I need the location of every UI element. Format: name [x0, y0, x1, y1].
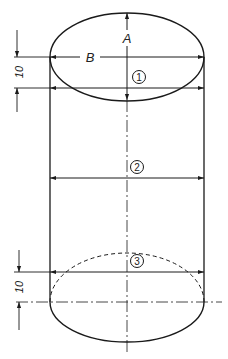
- cylinder-drawing: A B 1 2 3 10 10: [0, 0, 228, 359]
- label-b: B: [86, 50, 95, 65]
- top-dim-label: 10: [13, 65, 25, 78]
- bottom-dim-label: 10: [13, 280, 25, 293]
- marker-1-label: 1: [136, 72, 142, 83]
- marker-2-label: 2: [134, 162, 140, 173]
- marker-3-label: 3: [134, 256, 140, 267]
- label-a: A: [122, 31, 132, 46]
